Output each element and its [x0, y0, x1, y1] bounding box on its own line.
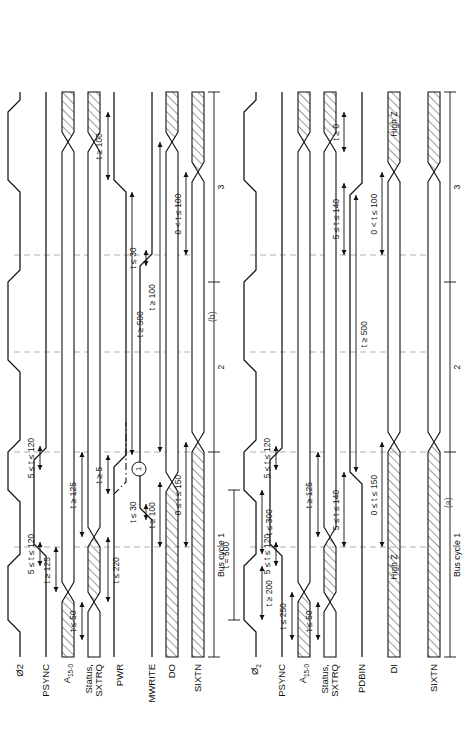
- bus-cycle-3-label: 3: [216, 185, 226, 190]
- annotation-pwr-width: t ≥ 500: [135, 311, 145, 337]
- signal-label-status: Status, SXTRQ: [320, 664, 340, 697]
- note-marker-1: 1: [132, 462, 147, 477]
- signal-label-pdbin: PDBIN: [357, 664, 367, 693]
- bus-cycle-2-label: 2: [452, 365, 462, 370]
- annotation-status-valid: t ≤ 50: [68, 610, 78, 632]
- annotation-pdbin-trail: t ≥ 0: [331, 124, 341, 141]
- annotation-status-valid: t ≤ 50: [304, 610, 314, 632]
- annotation-psync-fall: 5 ≤ t ≤ 120: [26, 438, 36, 479]
- signal-label-mwrite: MWRITE: [147, 664, 157, 703]
- signal-label-status: Status, SXTRQ: [84, 664, 104, 697]
- annotation-di-setup: 0 ≤ t ≤ 150: [369, 475, 379, 516]
- state-label-high-z-right: High Z: [389, 111, 399, 136]
- figure-page: Ø2 PSYNC A15-0 Status, SXTRQ PWR MWRITE …: [0, 0, 471, 752]
- annotation-clock-low: t ≤ 300: [264, 509, 274, 535]
- annotation-mwrite-rise: t ≤ 30: [128, 501, 138, 523]
- annotation-clock-high: t ≥ 200: [264, 580, 274, 606]
- signal-label-clock: Ø2: [250, 664, 263, 675]
- signal-label-sixtn: SIXTN: [429, 664, 439, 692]
- signal-label-sixtn: SIXTN: [193, 664, 203, 692]
- annotation-mwrite-fall: t ≤ 30: [128, 247, 138, 269]
- annotation-address-setup: t ≥ 125: [42, 557, 52, 583]
- annotation-status-width: t ≤ 220: [111, 557, 121, 583]
- timing-panel-b: Ø2 PSYNC A15-0 Status, SXTRQ PWR MWRITE …: [0, 52, 222, 752]
- panel-caption-a: (a): [443, 497, 453, 508]
- annotation-pdbin-width: t ≥ 500: [359, 321, 369, 347]
- signal-label-clock: Ø2: [15, 664, 25, 677]
- signal-label-di: DI: [389, 664, 399, 674]
- annotation-sixtn-setup: 0 ≤ t ≤ 150: [173, 475, 183, 516]
- signal-label-do: DO: [167, 664, 177, 678]
- annotation-do-width: t ≥ 100: [147, 284, 157, 310]
- annotation-address-valid: t ≤ 250: [278, 603, 288, 629]
- annotation-status-setup: t ≥ 125: [68, 482, 78, 508]
- annotation-sixtn-hold: 0 < t ≤ 100: [173, 194, 183, 235]
- signal-label-psync: PSYNC: [277, 664, 287, 697]
- bus-cycle-3-label: 3: [452, 185, 462, 190]
- annotation-do-setup: t ≥ 100: [147, 502, 157, 528]
- annotation-psync-rise: 5 ≤ t ≤ 120: [26, 534, 36, 575]
- signal-label-address: A15-0: [298, 664, 311, 683]
- signal-label-pwr: PWR: [115, 664, 125, 686]
- panel-caption-b: (b): [207, 311, 217, 322]
- annotation-status-setup: t ≥ 125: [304, 482, 314, 508]
- annotation-pdbin-rise: 5 ≤ t ≤ 140: [331, 490, 341, 531]
- annotation-pwr-trail: t ≥ 100: [94, 133, 104, 159]
- bus-cycle-2-label: 2: [216, 365, 226, 370]
- annotation-pwr-lead: t ≥ 5: [94, 467, 104, 484]
- annotation-di-hold: 0 < t ≤ 100: [369, 194, 379, 235]
- signal-label-address: A15-0: [62, 664, 75, 683]
- annotation-psync-rise: 5 ≤ t ≤ 120: [262, 534, 272, 575]
- bus-cycle-1-label: Bus cycle 1: [452, 533, 462, 577]
- state-label-high-z-left: High Z: [389, 554, 399, 579]
- annotation-pdbin-fall: 5 ≤ t ≤ 140: [331, 199, 341, 240]
- timing-panel-a: Ø2 PSYNC A15-0 Status, SXTRQ PDBIN DI SI…: [236, 52, 458, 752]
- annotation-psync-fall: 5 ≤ t ≤ 120: [262, 438, 272, 479]
- signal-label-psync: PSYNC: [41, 664, 51, 697]
- annotation-clock-period: t = 500: [221, 542, 231, 569]
